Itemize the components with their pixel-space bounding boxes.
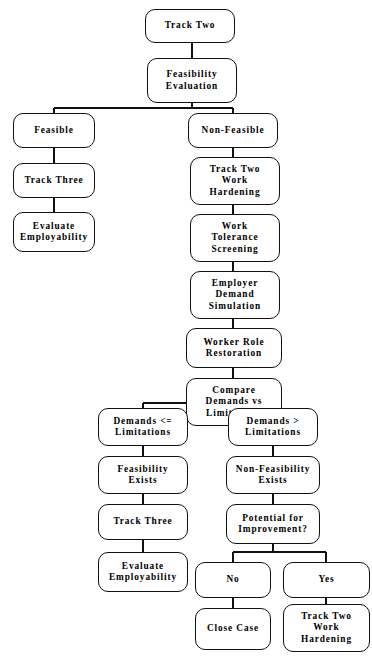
node-label: Demands >Limitations <box>232 416 314 439</box>
node-label: WorkToleranceScreening <box>194 221 276 255</box>
node-no[interactable]: No <box>195 562 271 598</box>
node-track-three-upper[interactable]: Track Three <box>13 163 95 198</box>
node-track-three-lower[interactable]: Track Three <box>98 504 188 540</box>
node-label: No <box>199 574 267 585</box>
node-label: Non-FeasibilityExists <box>230 464 316 487</box>
node-label: Track TwoWorkHardening <box>194 164 276 198</box>
node-label: EvaluateEmployability <box>102 561 184 584</box>
node-label: EvaluateEmployability <box>17 221 91 244</box>
node-track-two-work-hardening-lower[interactable]: Track TwoWorkHardening <box>283 604 370 652</box>
node-label: EmployerDemandSimulation <box>194 278 276 312</box>
node-worker-role-restoration[interactable]: Worker RoleRestoration <box>186 328 282 368</box>
node-demands-gt-limitations[interactable]: Demands >Limitations <box>228 408 318 446</box>
node-label: Track Three <box>102 516 184 527</box>
node-track-two-work-hardening-upper[interactable]: Track TwoWorkHardening <box>190 157 280 205</box>
node-label: Track Two <box>149 20 231 31</box>
node-feasible[interactable]: Feasible <box>13 113 95 148</box>
node-label: Feasible <box>17 125 91 136</box>
connector-potential-split <box>233 544 326 562</box>
flowchart-canvas: Track TwoFeasibilityEvaluationFeasibleNo… <box>0 0 372 658</box>
node-label: Worker RoleRestoration <box>190 337 278 360</box>
node-employer-demand-simulation[interactable]: EmployerDemandSimulation <box>190 271 280 319</box>
node-evaluate-employability-lower[interactable]: EvaluateEmployability <box>98 552 188 592</box>
node-non-feasible[interactable]: Non-Feasible <box>188 113 278 148</box>
node-label: Track TwoWorkHardening <box>287 611 366 645</box>
node-label: Non-Feasible <box>192 125 274 136</box>
node-yes[interactable]: Yes <box>283 562 370 598</box>
node-feasibility-exists[interactable]: FeasibilityExists <box>98 456 188 494</box>
node-evaluate-employability-upper[interactable]: EvaluateEmployability <box>13 212 95 252</box>
node-label: FeasibilityExists <box>102 464 184 487</box>
node-label: Demands <=Limitations <box>102 416 184 439</box>
node-feasibility-evaluation[interactable]: FeasibilityEvaluation <box>147 58 237 103</box>
node-non-feasibility-exists[interactable]: Non-FeasibilityExists <box>226 456 320 494</box>
node-close-case[interactable]: Close Case <box>195 608 271 650</box>
node-demands-le-limitations[interactable]: Demands <=Limitations <box>98 408 188 446</box>
node-track-two[interactable]: Track Two <box>145 9 235 43</box>
node-label: Yes <box>287 574 366 585</box>
node-potential-for-improvement[interactable]: Potential forImprovement? <box>226 504 320 544</box>
node-label: Track Three <box>17 175 91 186</box>
node-work-tolerance-screening[interactable]: WorkToleranceScreening <box>190 214 280 262</box>
connector-feasibility-evaluation-split <box>54 103 233 113</box>
node-label: Potential forImprovement? <box>230 513 316 536</box>
node-label: Close Case <box>199 623 267 634</box>
node-label: FeasibilityEvaluation <box>151 69 233 92</box>
